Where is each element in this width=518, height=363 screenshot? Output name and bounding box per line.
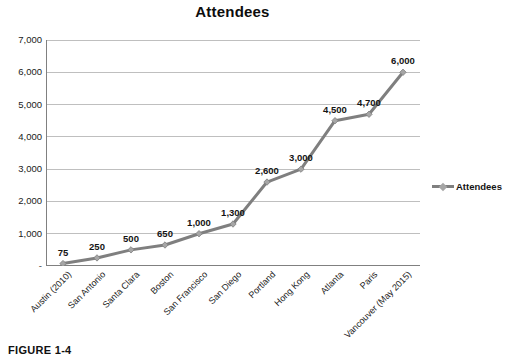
x-axis-tick-label: San Diego bbox=[207, 270, 243, 306]
x-axis-tick-label: Hong Kong bbox=[273, 270, 312, 309]
y-axis-tick-label: 4,000 bbox=[2, 132, 42, 142]
plot-area bbox=[46, 40, 420, 266]
y-axis-tick-label: 3,000 bbox=[2, 164, 42, 174]
y-axis-tick-label: 6,000 bbox=[2, 67, 42, 77]
y-axis-tick-label: - bbox=[2, 261, 42, 271]
series-markers-group bbox=[60, 69, 406, 266]
y-axis-tick-label: 5,000 bbox=[2, 100, 42, 110]
chart-title: Attendees bbox=[45, 3, 420, 20]
legend-entry-label: Attendees bbox=[456, 181, 502, 192]
chart-legend: Attendees bbox=[432, 181, 502, 192]
line-chart-svg bbox=[46, 40, 420, 266]
y-axis-tick-label: 2,000 bbox=[2, 196, 42, 206]
gridlines-group bbox=[46, 40, 420, 266]
axis-lines-group bbox=[46, 40, 420, 266]
x-axis-tick-label: Boston bbox=[149, 270, 175, 296]
x-axis-tick-label: Austin (2010) bbox=[29, 270, 74, 315]
x-axis-tick-label: Portland bbox=[247, 270, 277, 300]
y-axis-tick-label: 7,000 bbox=[2, 35, 42, 45]
series-line-attendees bbox=[63, 72, 403, 263]
x-axis-tick-label: Vancouver (May 2015) bbox=[343, 270, 414, 341]
x-axis-tick-label: Paris bbox=[358, 270, 379, 291]
figure-container: Attendees -1,0002,0003,0004,0005,0006,00… bbox=[0, 0, 518, 363]
x-axis-tick-labels: Austin (2010)San AntonioSanta ClaraBosto… bbox=[46, 266, 420, 361]
y-axis-tick-labels: -1,0002,0003,0004,0005,0006,0007,000 bbox=[0, 40, 42, 266]
data-point-marker bbox=[128, 247, 134, 253]
y-axis-tick-label: 1,000 bbox=[2, 229, 42, 239]
data-point-marker bbox=[94, 255, 100, 261]
legend-line-marker-icon bbox=[432, 182, 454, 192]
x-axis-tick-label: Atlanta bbox=[319, 270, 345, 296]
figure-caption: FIGURE 1-4 bbox=[8, 344, 72, 356]
